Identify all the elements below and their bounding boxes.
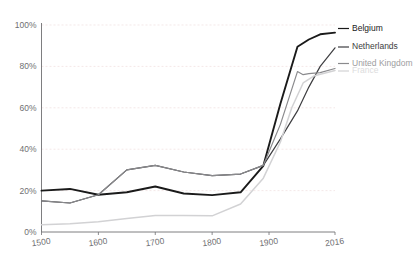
y-tick-label-20pct: 20% <box>19 186 36 196</box>
x-axis-tick-labels: 150016001700180019002016 <box>31 236 345 249</box>
legend-label-belgium: Belgium <box>352 23 383 33</box>
series-line-belgium <box>42 33 336 195</box>
x-tick-label-1900: 1900 <box>259 236 279 249</box>
x-tick-label-2016: 2016 <box>325 236 345 249</box>
x-tick-label-1700: 1700 <box>145 236 165 249</box>
y-tick-label-100pct: 100% <box>15 20 37 30</box>
axes <box>42 23 336 232</box>
chart-container: 0%20%40%60%80%100% 150016001700180019002… <box>0 0 418 262</box>
line-chart: 0%20%40%60%80%100% 150016001700180019002… <box>0 0 418 262</box>
inline-series-legend: BelgiumNetherlandsUnited KingdomFrance <box>338 23 412 76</box>
series-line-france <box>42 71 336 225</box>
x-tick-label-1500: 1500 <box>31 236 51 249</box>
y-axis-tick-labels: 0%20%40%60%80%100% <box>15 20 37 237</box>
y-tick-label-40pct: 40% <box>19 144 36 154</box>
x-tick-label-1600: 1600 <box>88 236 108 249</box>
series-line-united-kingdom <box>42 68 336 203</box>
x-tick-label-1800: 1800 <box>202 236 222 249</box>
data-series <box>42 33 336 225</box>
gridlines <box>42 25 336 191</box>
legend-label-france: France <box>352 65 379 75</box>
y-tick-label-0pct: 0% <box>24 227 37 237</box>
y-tick-label-80pct: 80% <box>19 61 36 71</box>
y-tick-label-60pct: 60% <box>19 103 36 113</box>
legend-label-netherlands: Netherlands <box>352 41 398 51</box>
